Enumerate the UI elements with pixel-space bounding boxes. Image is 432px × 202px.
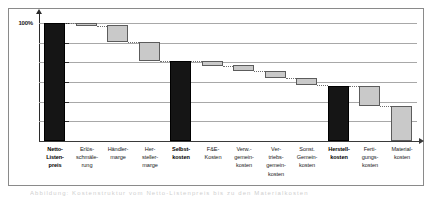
category-label: Verw.-gemein-kosten bbox=[228, 145, 260, 170]
category-label-line: Material- bbox=[386, 145, 418, 153]
category-label-line: Gemein- bbox=[291, 153, 323, 161]
category-label-line: kosten bbox=[323, 153, 355, 161]
category-label-line: preis bbox=[39, 161, 71, 169]
delta-bar bbox=[139, 42, 160, 61]
category-label-line: triebs- bbox=[260, 153, 292, 161]
category-label-line: kosten bbox=[386, 153, 418, 161]
category-axis-labels: Netto-Listen-preisErlös-schmäle-rungHänd… bbox=[39, 145, 421, 187]
category-label: Her-steller-marge bbox=[134, 145, 166, 170]
delta-bar bbox=[233, 65, 254, 71]
figure-caption: Abbildung: Kostenstruktur vom Netto-List… bbox=[30, 190, 402, 199]
delta-bar bbox=[76, 23, 97, 26]
bar-connector-line bbox=[223, 66, 233, 67]
category-label: Erlös-schmäle-rung bbox=[71, 145, 103, 170]
category-label-line: Herstell- bbox=[323, 145, 355, 153]
total-bar bbox=[170, 61, 191, 141]
category-label-line: Händler- bbox=[102, 145, 134, 153]
bar-connector-line bbox=[254, 71, 265, 72]
category-label-line: kosten bbox=[354, 161, 386, 169]
plot-area bbox=[39, 23, 417, 141]
delta-bar bbox=[359, 86, 380, 106]
bar-connector-line bbox=[191, 61, 202, 62]
category-label-line: Netto- bbox=[39, 145, 71, 153]
gridline bbox=[39, 43, 417, 44]
delta-bar bbox=[107, 25, 128, 42]
category-label-line: gemein- bbox=[260, 161, 292, 169]
gridline bbox=[39, 82, 417, 83]
bar-connector-line bbox=[286, 78, 296, 79]
category-label-line: kosten bbox=[228, 161, 260, 169]
delta-bar bbox=[265, 71, 286, 78]
bar-connector-line bbox=[97, 26, 107, 27]
category-label-line: Verw.- bbox=[228, 145, 260, 153]
category-label-line: Sonst. bbox=[291, 145, 323, 153]
bar-connector-line bbox=[349, 86, 359, 87]
category-label-line: schmäle- bbox=[71, 153, 103, 161]
bar-connector-line bbox=[317, 85, 328, 86]
delta-bar bbox=[391, 106, 412, 141]
category-label-line: steller- bbox=[134, 153, 166, 161]
category-label: Netto-Listen-preis bbox=[39, 145, 71, 170]
category-label: Ver-triebs-gemein-kosten bbox=[260, 145, 292, 178]
category-label: F&E-Kosten bbox=[197, 145, 229, 161]
category-label: Sonst.Gemein-kosten bbox=[291, 145, 323, 170]
category-label-line: gungs- bbox=[354, 153, 386, 161]
figure-frame: 100% Netto-Listen-preisErlös-schmäle-run… bbox=[8, 8, 424, 186]
category-label-line: Kosten bbox=[197, 153, 229, 161]
screenshot-root: 100% Netto-Listen-preisErlös-schmäle-run… bbox=[0, 0, 432, 202]
delta-bar bbox=[202, 61, 223, 66]
bar-connector-line bbox=[65, 23, 76, 24]
category-label-line: Ferti- bbox=[354, 145, 386, 153]
category-label-line: F&E- bbox=[197, 145, 229, 153]
category-label-line: marge bbox=[102, 153, 134, 161]
category-label: Herstell-kosten bbox=[323, 145, 355, 161]
up-arrow-icon bbox=[36, 9, 42, 14]
category-label-line: gemein- bbox=[228, 153, 260, 161]
total-bar bbox=[44, 23, 65, 141]
category-label: Selbst-kosten bbox=[165, 145, 197, 161]
category-label: Händler-marge bbox=[102, 145, 134, 161]
delta-bar bbox=[296, 78, 317, 85]
category-label-line: Ver- bbox=[260, 145, 292, 153]
category-label-line: kosten bbox=[291, 161, 323, 169]
category-axis-line bbox=[39, 141, 421, 142]
category-label: Ferti-gungs-kosten bbox=[354, 145, 386, 170]
category-label-line: kosten bbox=[260, 170, 292, 178]
bar-connector-line bbox=[380, 106, 391, 107]
gridline bbox=[39, 62, 417, 63]
category-label-line: Her- bbox=[134, 145, 166, 153]
bar-connector-line bbox=[128, 42, 139, 43]
gridline bbox=[39, 121, 417, 122]
category-label-line: Erlös- bbox=[71, 145, 103, 153]
category-label-line: marge bbox=[134, 161, 166, 169]
category-label: Material-kosten bbox=[386, 145, 418, 161]
category-label-line: Listen- bbox=[39, 153, 71, 161]
total-bar bbox=[328, 86, 349, 141]
value-axis-tick-label-100: 100% bbox=[11, 20, 33, 26]
bar-connector-line bbox=[160, 61, 170, 62]
category-label-line: Selbst- bbox=[165, 145, 197, 153]
category-label-line: kosten bbox=[165, 153, 197, 161]
category-label-line: rung bbox=[71, 161, 103, 169]
